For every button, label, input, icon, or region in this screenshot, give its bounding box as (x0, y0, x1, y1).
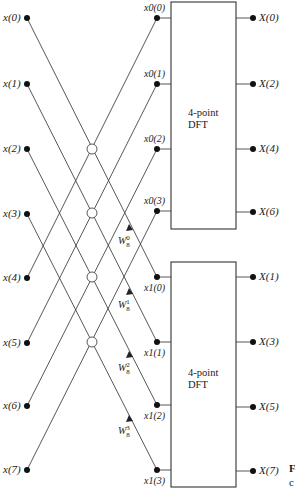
lower-seq-label: x1(1) (144, 348, 165, 358)
adder-node (87, 208, 97, 218)
input-label: x(2) (3, 143, 21, 154)
upper-block-label: 4-pointDFT (188, 107, 218, 131)
lower-seq-label: x1(2) (144, 411, 165, 421)
input-label: x(7) (3, 464, 21, 475)
output-label: X(5) (259, 401, 279, 412)
twiddle-factor: W18 (118, 299, 130, 313)
output-label: X(7) (259, 465, 279, 476)
output-label: X(3) (259, 336, 279, 347)
cropped-caption-text: c (289, 476, 294, 488)
output-label: X(4) (259, 143, 279, 154)
cropped-caption-text: F (289, 462, 295, 474)
input-label: x(6) (3, 400, 21, 411)
input-label: x(0) (3, 12, 21, 23)
upper-seq-label: x0(1) (144, 69, 165, 79)
input-label: x(5) (3, 337, 21, 348)
upper-seq-label: x0(3) (144, 196, 165, 206)
twiddle-factor: W38 (118, 425, 130, 439)
upper-seq-label: x0(2) (144, 134, 165, 144)
lower-block-label: 4-pointDFT (188, 367, 218, 391)
output-label: X(6) (259, 206, 279, 217)
input-label: x(3) (3, 208, 21, 219)
adder-node (87, 144, 97, 154)
output-label: X(2) (259, 78, 279, 89)
output-label: X(1) (259, 271, 279, 282)
lower-seq-label: x1(3) (144, 476, 165, 486)
input-label: x(1) (3, 78, 21, 89)
lower-seq-label: x1(0) (144, 283, 165, 293)
output-label: X(0) (259, 12, 279, 23)
twiddle-factor: W28 (118, 362, 130, 376)
adder-node (87, 272, 97, 282)
input-label: x(4) (3, 272, 21, 283)
twiddle-factor: W08 (118, 235, 130, 249)
adder-node (87, 337, 97, 347)
upper-seq-label: x0(0) (144, 3, 165, 13)
